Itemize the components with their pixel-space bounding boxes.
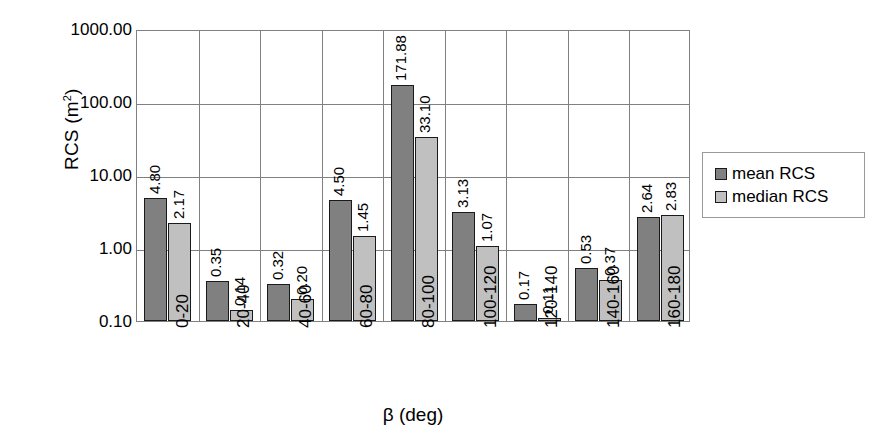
bar-mean <box>206 281 229 321</box>
chart-legend: mean RCSmedian RCS <box>702 152 865 218</box>
x-axis-tick-label: 140-160 <box>605 266 622 328</box>
bar-mean <box>391 85 414 321</box>
legend-swatch-mean <box>715 168 727 180</box>
bar-value-label: 0.32 <box>270 251 285 280</box>
vertical-gridline <box>629 31 630 321</box>
bar-mean <box>144 198 167 321</box>
bar-value-label: 4.80 <box>147 165 162 194</box>
bar-value-label: 0.17 <box>516 271 531 300</box>
chart-screenshot: RCS (m2) 1000.00100.0010.001.000.10 4.80… <box>0 0 885 444</box>
y-axis-tick-label: 1.00 <box>32 240 132 257</box>
x-axis-title: β (deg) <box>136 404 690 426</box>
y-axis-tick-label: 1000.00 <box>32 21 132 38</box>
bar-value-label: 2.83 <box>663 182 678 211</box>
bar-value-label: 4.50 <box>331 167 346 196</box>
vertical-gridline <box>445 31 446 321</box>
vertical-gridline <box>568 31 569 321</box>
bar-value-label: 33.10 <box>417 96 432 134</box>
x-axis-tick-label: 20-40 <box>235 285 252 328</box>
bar-mean <box>329 200 352 321</box>
legend-label: median RCS <box>732 188 828 205</box>
bar-mean <box>637 217 660 321</box>
y-axis-tick-label: 100.00 <box>32 94 132 111</box>
x-axis-tick-label: 80-100 <box>420 275 437 328</box>
x-axis-tick-label: 60-80 <box>358 285 375 328</box>
bar-mean <box>267 284 290 321</box>
bar-value-label: 2.17 <box>171 190 186 219</box>
legend-swatch-median <box>715 191 727 203</box>
y-axis-tick-labels: 1000.00100.0010.001.000.10 <box>28 0 132 444</box>
x-axis-tick-label: 160-180 <box>666 266 683 328</box>
legend-item: mean RCS <box>703 162 864 185</box>
bar-value-label: 0.53 <box>578 235 593 264</box>
y-axis-tick-label: 10.00 <box>32 167 132 184</box>
bar-value-label: 0.35 <box>208 248 223 277</box>
legend-label: mean RCS <box>732 165 815 182</box>
x-axis-tick-labels: 0-2020-4040-6060-8080-100100-120120-1401… <box>136 322 690 402</box>
bar-value-label: 1.07 <box>479 213 494 242</box>
legend-item: median RCS <box>703 185 864 208</box>
vertical-gridline <box>506 31 507 321</box>
bar-value-label: 3.13 <box>455 179 470 208</box>
x-axis-tick-label: 120-140 <box>543 266 560 328</box>
bar-mean <box>514 304 537 321</box>
bar-mean <box>575 268 598 321</box>
x-axis-tick-label: 100-120 <box>482 266 499 328</box>
bar-value-label: 1.45 <box>355 203 370 232</box>
x-axis-tick-label: 40-60 <box>297 285 314 328</box>
y-axis-tick-label: 0.10 <box>32 313 132 330</box>
vertical-gridline <box>383 31 384 321</box>
bar-value-label: 2.64 <box>639 184 654 213</box>
bar-mean <box>452 212 475 321</box>
bar-value-label: 171.88 <box>393 35 408 81</box>
x-axis-tick-label: 0-20 <box>174 294 191 328</box>
vertical-gridline <box>322 31 323 321</box>
vertical-gridline <box>199 31 200 321</box>
vertical-gridline <box>260 31 261 321</box>
